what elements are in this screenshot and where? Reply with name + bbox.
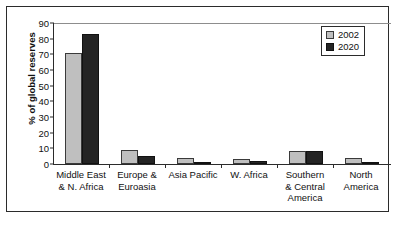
legend-item-2002: 2002 bbox=[326, 30, 359, 40]
x-axis-category-label: Asia Pacific bbox=[165, 169, 221, 181]
category-label-line: Middle East bbox=[53, 169, 109, 181]
bar-group bbox=[110, 150, 166, 164]
category-label-line: Europe & bbox=[109, 169, 165, 181]
x-axis-tick-mark bbox=[109, 164, 110, 168]
y-axis-tick-label: 70 bbox=[11, 49, 54, 60]
category-label-line: Euroasia bbox=[109, 181, 165, 193]
bar-2002 bbox=[121, 150, 138, 164]
bar-2002 bbox=[345, 158, 362, 164]
bar-group bbox=[334, 158, 390, 164]
bar-group bbox=[166, 158, 222, 164]
chart-frame: % of global reserves 0102030405060708090… bbox=[6, 6, 389, 212]
x-axis-tick-mark bbox=[165, 164, 166, 168]
bar-2002 bbox=[65, 53, 82, 164]
x-axis-category-label: NorthAmerica bbox=[333, 169, 389, 192]
x-axis-category-label: Middle East& N. Africa bbox=[53, 169, 109, 192]
chart-legend: 2002 2020 bbox=[321, 26, 365, 56]
y-axis-tick-label: 30 bbox=[11, 112, 54, 123]
bar-2020 bbox=[306, 151, 323, 164]
bar-2020 bbox=[194, 162, 211, 164]
y-axis-tick-label: 40 bbox=[11, 96, 54, 107]
bar-group bbox=[222, 159, 278, 164]
category-label-line: America bbox=[333, 181, 389, 193]
x-axis-category-label: W. Africa bbox=[221, 169, 277, 181]
bar-2020 bbox=[82, 34, 99, 164]
bar-2002 bbox=[233, 159, 250, 164]
y-axis-tick-label: 80 bbox=[11, 33, 54, 44]
x-axis-category-label: Europe &Euroasia bbox=[109, 169, 165, 192]
y-axis-tick-label: 20 bbox=[11, 127, 54, 138]
x-axis-tick-mark bbox=[221, 164, 222, 168]
legend-item-2020: 2020 bbox=[326, 42, 359, 52]
category-label-line: & Central bbox=[277, 181, 333, 193]
y-axis-tick-mark bbox=[50, 23, 54, 24]
category-label-line: & N. Africa bbox=[53, 181, 109, 193]
bar-group bbox=[54, 34, 110, 164]
legend-label-2020: 2020 bbox=[338, 42, 359, 52]
category-label-line: Asia Pacific bbox=[165, 169, 221, 181]
legend-swatch-2020-icon bbox=[326, 43, 334, 51]
chart-screenshot: % of global reserves 0102030405060708090… bbox=[0, 0, 395, 226]
y-axis-tick-label: 50 bbox=[11, 80, 54, 91]
x-axis-tick-mark bbox=[277, 164, 278, 168]
legend-label-2002: 2002 bbox=[338, 30, 359, 40]
legend-swatch-2002-icon bbox=[326, 31, 334, 39]
category-label-line: America bbox=[277, 192, 333, 204]
bar-2002 bbox=[177, 158, 194, 164]
y-axis-tick-label: 0 bbox=[11, 159, 54, 170]
bar-2020 bbox=[362, 162, 379, 164]
bar-2002 bbox=[289, 151, 306, 164]
x-axis-line bbox=[53, 164, 391, 165]
category-label-line: North bbox=[333, 169, 389, 181]
bar-group bbox=[278, 151, 334, 164]
y-axis-tick-label: 90 bbox=[11, 18, 54, 29]
y-axis-tick-label: 60 bbox=[11, 65, 54, 76]
category-label-line: Southern bbox=[277, 169, 333, 181]
y-axis-tick-label: 10 bbox=[11, 143, 54, 154]
category-label-line: W. Africa bbox=[221, 169, 277, 181]
bar-2020 bbox=[138, 156, 155, 164]
x-axis-tick-mark bbox=[333, 164, 334, 168]
bar-2020 bbox=[250, 161, 267, 164]
x-axis-category-label: Southern& CentralAmerica bbox=[277, 169, 333, 204]
